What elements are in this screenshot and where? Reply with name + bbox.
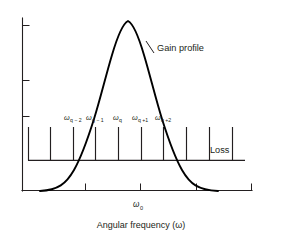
mode-label-q-plus-1: ω q +1 xyxy=(132,113,148,123)
mode-label-q: ω q xyxy=(113,113,122,123)
mode-label-subscript: q − 2 xyxy=(70,117,82,123)
center-frequency-subscript: 0 xyxy=(140,205,143,211)
figure-root: Gain profile Loss ω q − 2 ω q − 1 ω q ω … xyxy=(0,0,282,239)
mode-label-subscript: q +1 xyxy=(138,117,148,123)
loss-comb-group xyxy=(28,127,245,161)
center-frequency-label: ω 0 xyxy=(133,200,143,211)
loss-label: Loss xyxy=(210,145,230,155)
mode-label-subscript: q xyxy=(119,117,122,123)
axes-group xyxy=(22,18,252,191)
mode-label-q-minus-2: ω q − 2 xyxy=(64,113,82,123)
center-frequency-base: ω xyxy=(133,200,140,209)
mode-label-subscript: q +2 xyxy=(161,117,171,123)
mode-label-subscript: q − 1 xyxy=(92,117,104,123)
mode-label-q-plus-2: ω q +2 xyxy=(155,113,171,123)
gain-profile-label: Gain profile xyxy=(157,43,204,53)
gain-loss-diagram: Gain profile Loss ω q − 2 ω q − 1 ω q ω … xyxy=(0,0,282,239)
gain-label-leader-line xyxy=(146,41,154,53)
x-axis-label: Angular frequency (ω) xyxy=(97,220,186,230)
gain-label-leader-group xyxy=(146,41,154,53)
